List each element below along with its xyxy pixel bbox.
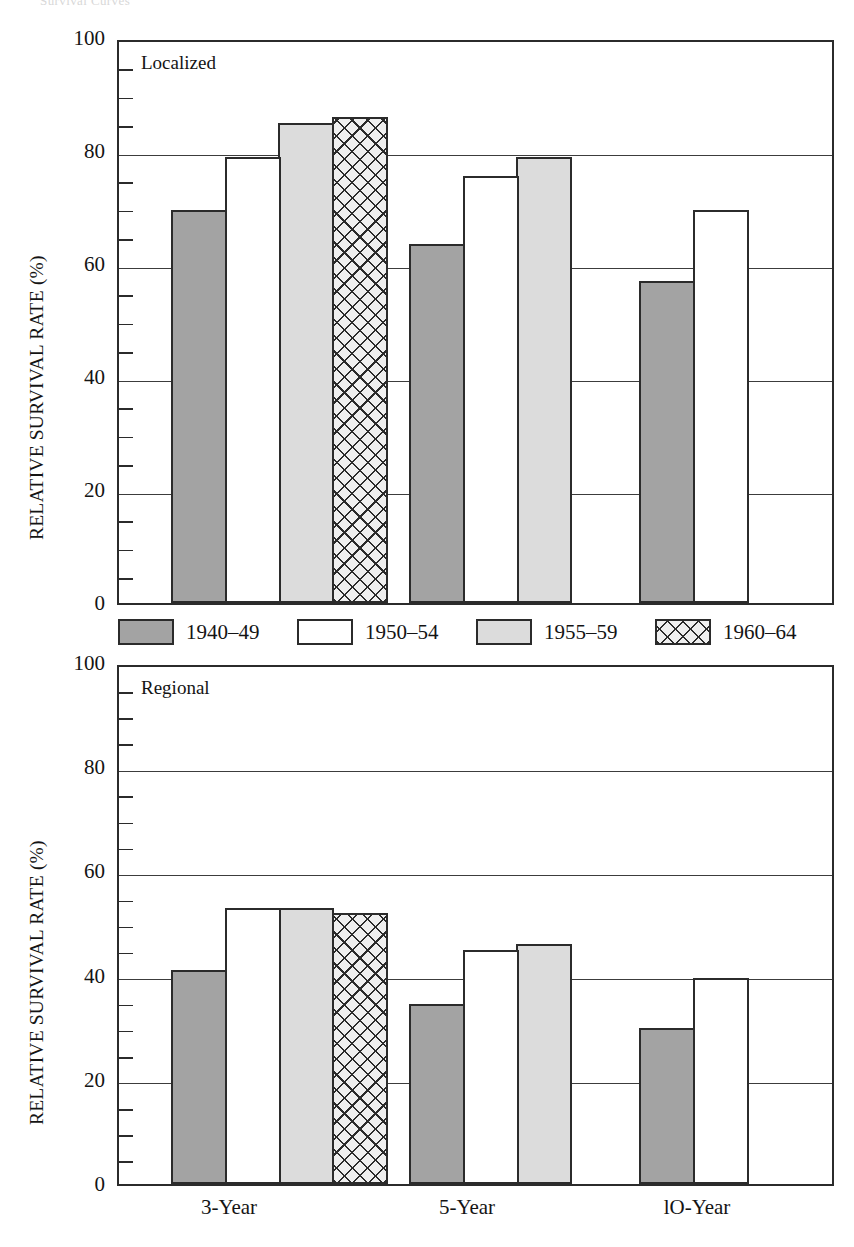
y-axis-minor-tick	[119, 324, 133, 326]
panel-title-localized: Localized	[141, 52, 216, 74]
y-axis-minor-tick	[119, 408, 133, 410]
x-axis-tick-label: 5-Year	[377, 1195, 557, 1220]
legend-label-0: 1940–49	[186, 620, 260, 645]
bar	[409, 1004, 465, 1184]
y-axis-minor-tick	[119, 295, 133, 297]
bar	[409, 244, 465, 603]
legend-label-1: 1950–54	[365, 620, 439, 645]
legend-label-2: 1955–59	[544, 620, 618, 645]
bar	[332, 117, 388, 603]
legend-item-2[interactable]: 1955–59	[476, 619, 655, 645]
y-axis-minor-tick	[119, 953, 133, 955]
legend-label-3: 1960–64	[723, 620, 797, 645]
y-axis-minor-tick	[119, 901, 133, 903]
y-axis-minor-tick	[119, 69, 133, 71]
gridline	[119, 155, 832, 156]
y-axis-minor-tick	[119, 211, 133, 213]
x-axis-tick-label: lO-Year	[607, 1195, 787, 1220]
bar	[463, 176, 519, 603]
y-axis-tick-label: 80	[25, 755, 105, 780]
bar	[171, 210, 227, 603]
y-axis-minor-tick	[119, 352, 133, 354]
bar	[171, 970, 227, 1184]
y-axis-minor-tick	[119, 98, 133, 100]
y-axis-minor-tick	[119, 437, 133, 439]
bar	[332, 913, 388, 1184]
legend-item-1[interactable]: 1950–54	[297, 619, 476, 645]
y-axis-tick-label: 20	[25, 478, 105, 503]
y-axis-tick-label: 100	[25, 651, 105, 676]
bar	[463, 950, 519, 1184]
y-axis-tick-label: 40	[25, 964, 105, 989]
y-axis-tick-label: 100	[25, 26, 105, 51]
legend-item-0[interactable]: 1940–49	[118, 619, 297, 645]
bar	[693, 210, 749, 603]
y-axis-minor-tick	[119, 1057, 133, 1059]
gridline	[119, 771, 832, 772]
panel-title-regional: Regional	[141, 677, 210, 699]
legend-swatch-1960-64-icon	[655, 619, 711, 645]
y-axis-tick-label: 80	[25, 139, 105, 164]
bar	[225, 908, 281, 1184]
y-axis-tick-label: 60	[25, 252, 105, 277]
bar	[516, 157, 572, 603]
legend-swatch-1950-54-icon	[297, 619, 353, 645]
y-axis-minor-tick	[119, 744, 133, 746]
bar	[225, 157, 281, 603]
y-axis-minor-tick	[119, 1109, 133, 1111]
y-axis-minor-tick	[119, 692, 133, 694]
y-axis-minor-tick	[119, 239, 133, 241]
plot-area-localized: Localized	[117, 40, 834, 605]
bar	[693, 978, 749, 1184]
y-axis-minor-tick	[119, 849, 133, 851]
y-axis-tick-label: 0	[25, 591, 105, 616]
legend-item-3[interactable]: 1960–64	[655, 619, 834, 645]
gridline	[119, 875, 832, 876]
y-axis-tick-label: 40	[25, 365, 105, 390]
y-axis-minor-tick	[119, 796, 133, 798]
y-axis-minor-tick	[119, 126, 133, 128]
y-axis-tick-label: 0	[25, 1172, 105, 1197]
y-axis-minor-tick	[119, 1135, 133, 1137]
bar	[516, 944, 572, 1184]
legend: 1940–49 1950–54 1955–59 1960–64	[118, 617, 834, 647]
bar	[278, 123, 334, 603]
y-axis-tick-label: 60	[25, 859, 105, 884]
bar	[639, 1028, 695, 1184]
y-axis-minor-tick	[119, 578, 133, 580]
y-axis-minor-tick	[119, 1031, 133, 1033]
plot-area-regional: Regional	[117, 665, 834, 1186]
y-axis-minor-tick	[119, 1161, 133, 1163]
bar	[278, 908, 334, 1184]
y-axis-minor-tick	[119, 465, 133, 467]
legend-swatch-1955-59-icon	[476, 619, 532, 645]
cropped-header-text: Survival Curves	[40, 0, 130, 9]
y-axis-minor-tick	[119, 1005, 133, 1007]
y-axis-minor-tick	[119, 718, 133, 720]
y-axis-minor-tick	[119, 927, 133, 929]
legend-swatch-1940-49-icon	[118, 619, 174, 645]
y-axis-minor-tick	[119, 823, 133, 825]
bar	[639, 281, 695, 603]
y-axis-tick-label: 20	[25, 1068, 105, 1093]
y-axis-minor-tick	[119, 521, 133, 523]
y-axis-minor-tick	[119, 182, 133, 184]
x-axis-tick-label: 3-Year	[139, 1195, 319, 1220]
y-axis-minor-tick	[119, 550, 133, 552]
